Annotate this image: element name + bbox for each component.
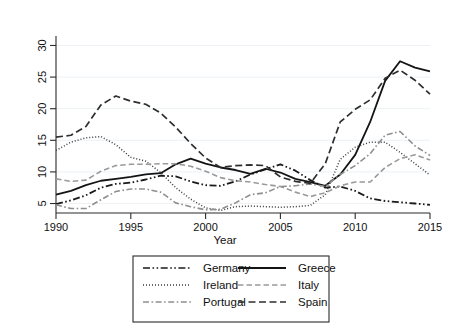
legend-label-spain: Spain [298, 296, 327, 308]
chart-legend: GermanyGreeceIrelandItalyPortugalSpain [133, 256, 336, 322]
x-tick-label: 2005 [268, 221, 292, 233]
line-chart: 51015202530 199019952000200520102015 Yea… [0, 0, 451, 333]
x-tick-label: 2000 [193, 221, 217, 233]
series-lines [56, 61, 430, 210]
y-axis-ticks [50, 45, 56, 203]
y-tick-label: 15 [36, 134, 48, 146]
legend-label-greece: Greece [298, 262, 336, 274]
y-tick-label: 10 [36, 166, 48, 178]
series-line-italy [56, 155, 430, 197]
x-axis-title: Year [213, 234, 236, 246]
y-tick-label: 25 [36, 71, 48, 83]
chart-figure: 51015202530 199019952000200520102015 Yea… [0, 0, 451, 333]
x-tick-label: 1990 [44, 221, 68, 233]
x-tick-label: 1995 [119, 221, 143, 233]
y-tick-label: 5 [36, 200, 48, 206]
legend-label-italy: Italy [298, 279, 319, 291]
y-tick-label: 30 [36, 39, 48, 51]
plot-frame [56, 36, 430, 213]
x-tick-label: 2015 [418, 221, 442, 233]
y-axis-tick-labels: 51015202530 [36, 39, 48, 206]
y-tick-label: 20 [36, 103, 48, 115]
x-tick-label: 2010 [343, 221, 367, 233]
series-line-germany [56, 164, 430, 204]
legend-label-ireland: Ireland [203, 279, 238, 291]
series-line-greece [56, 61, 430, 194]
x-axis-tick-labels: 199019952000200520102015 [44, 221, 442, 233]
x-axis-ticks [56, 213, 430, 219]
